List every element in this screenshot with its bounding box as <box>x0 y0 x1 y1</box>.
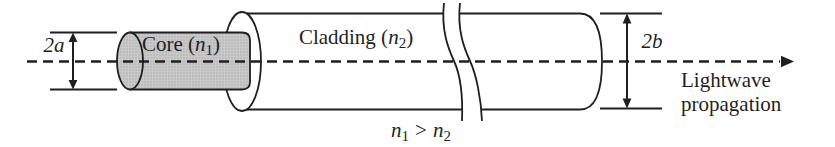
cladding-dim-arrowhead-up <box>623 14 632 24</box>
propagation-arrowhead <box>781 56 794 67</box>
index-inequality-label: n1>n2 <box>391 118 451 144</box>
core-dim-arrowhead-down <box>69 80 78 90</box>
cladding-label: Cladding (n2) <box>299 25 413 51</box>
core-dim-arrowhead-up <box>69 33 78 43</box>
lightwave-caption-line2: propagation <box>681 92 782 116</box>
cladding-dim-arrowhead-down <box>623 99 632 109</box>
optical-fiber-diagram: 2a Core (n1) Cladding (n2) 2b n1>n2 Ligh… <box>0 0 835 147</box>
fiber-structure-figure: 2a Core (n1) Cladding (n2) 2b n1>n2 Ligh… <box>0 0 835 147</box>
core-diameter-label: 2a <box>44 33 65 57</box>
cladding-diameter-label: 2b <box>642 29 663 53</box>
lightwave-caption-line1: Lightwave <box>681 68 771 92</box>
